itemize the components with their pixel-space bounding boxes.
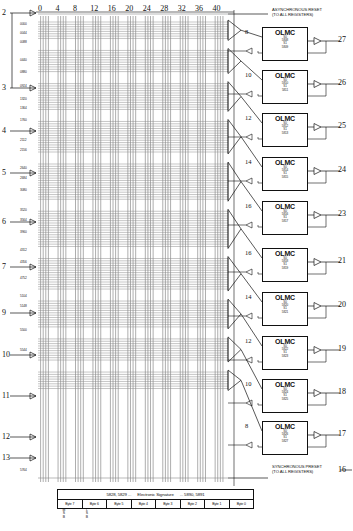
signature-byte-1: Byte 1: [205, 500, 230, 509]
signature-fuse-end: ... 5890, 5891: [180, 492, 205, 497]
product-term-count-pin-25: 12: [245, 114, 252, 121]
product-term-count-pin-27: 8: [245, 28, 248, 35]
signature-title: Electronic Signature: [137, 492, 173, 497]
row-address-5764: 5764: [20, 468, 27, 472]
row-address-0000: 0000: [20, 22, 27, 26]
product-term-count-pin-19: 12: [245, 337, 252, 344]
row-address-0044: 0044: [20, 31, 27, 35]
product-term-count-pin-21: 16: [245, 249, 252, 256]
row-address-0088: 0088: [20, 40, 27, 44]
row-address-4356: 4356: [20, 260, 27, 264]
row-address-3520: 3520: [20, 208, 27, 212]
row-address-3080: 3080: [20, 188, 27, 192]
row-address-0924: 0924: [20, 84, 27, 88]
product-term-count-pin-23: 16: [245, 202, 252, 209]
row-address-0880: 0880: [20, 70, 27, 74]
signature-byte-0: Byte 0: [230, 500, 254, 509]
product-term-count-pin-24: 14: [245, 158, 252, 165]
row-address-5104: 5104: [20, 294, 27, 298]
row-address-2112: 2112: [20, 138, 26, 142]
signature-byte-7: Byte 7: [58, 500, 83, 509]
electronic-signature-box: 5828, 5829 ... Electronic Signature ... …: [57, 489, 254, 509]
row-address-4312: 4312: [20, 248, 27, 252]
signature-byte-4: Byte 4: [132, 500, 157, 509]
row-address-5148: 5148: [20, 304, 27, 308]
row-address-1320: 1320: [20, 97, 27, 101]
row-address-3564: 3564: [20, 218, 27, 222]
row-address-2156: 2156: [20, 148, 27, 152]
row-address-labels: 0000004400880440088009241320136417602112…: [0, 0, 60, 531]
sync-preset-line2: (TO ALL REGISTERS): [272, 469, 350, 474]
row-address-0440: 0440: [20, 58, 27, 62]
msb-label: M S B: [60, 509, 68, 519]
row-address-1364: 1364: [20, 106, 27, 110]
product-term-count-pin-18: 10: [245, 380, 252, 387]
msb-char-2: B: [60, 516, 68, 519]
async-reset-note: ASYNCHRONOUS RESET (TO ALL REGISTERS): [272, 7, 350, 18]
row-address-5544: 5544: [20, 348, 27, 352]
row-address-2640: 2640: [20, 166, 27, 170]
signature-fuse-start: 5828, 5829 ...: [106, 492, 131, 497]
product-term-count-pin-26: 10: [245, 71, 252, 78]
lsb-char-2: B: [83, 516, 91, 519]
fuse-map-diagram: 0481216202428323640 234567910111213 2726…: [0, 0, 353, 531]
sync-preset-note: SYNCHRONOUS PRESET (TO ALL REGISTERS): [272, 464, 350, 475]
product-term-count-pin-17: 8: [245, 422, 248, 429]
row-address-3960: 3960: [20, 230, 27, 234]
row-address-5500: 5500: [20, 328, 27, 332]
lsb-label: L S B: [83, 509, 91, 519]
product-term-count-pin-20: 14: [245, 293, 252, 300]
signature-byte-3: Byte 3: [156, 500, 181, 509]
row-address-4752: 4752: [20, 276, 27, 280]
row-address-1760: 1760: [20, 118, 27, 122]
signature-byte-2: Byte 2: [181, 500, 206, 509]
row-address-2684: 2684: [20, 176, 27, 180]
signature-byte-5: Byte 5: [107, 500, 132, 509]
async-reset-line2: (TO ALL REGISTERS): [272, 12, 350, 17]
